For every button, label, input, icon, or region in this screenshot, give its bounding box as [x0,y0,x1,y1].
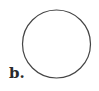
circle-shape [23,10,91,78]
figure-panel-b: b. [0,0,99,91]
figure-label: b. [9,66,25,81]
